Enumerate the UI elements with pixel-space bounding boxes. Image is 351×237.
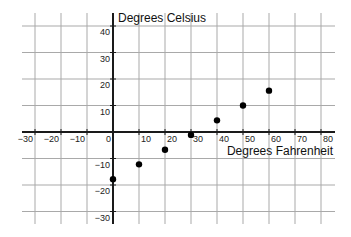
y-tick-label: 40: [100, 27, 110, 37]
data-point: [136, 161, 142, 167]
data-point: [110, 176, 116, 182]
y-tick-label: 20: [100, 80, 110, 90]
x-tick-label: −20: [44, 134, 59, 144]
x-tick-label: 30: [193, 134, 203, 144]
y-tick-label: −30: [95, 213, 110, 223]
grid: [22, 13, 335, 224]
tick-labels: −30−20−100102030405060708040302010−10−20…: [18, 27, 333, 223]
data-point: [240, 102, 246, 108]
x-axis-title: Degrees Fahrenheit: [227, 144, 334, 158]
x-tick-label: −10: [70, 134, 85, 144]
x-tick-label: 40: [219, 134, 229, 144]
y-tick-label: 10: [100, 107, 110, 117]
x-tick-label: 0: [106, 134, 111, 144]
scatter-chart: −30−20−100102030405060708040302010−10−20…: [0, 0, 351, 237]
x-tick-label: 60: [271, 134, 281, 144]
y-tick-label: −10: [95, 160, 110, 170]
data-point: [214, 117, 220, 123]
x-tick-label: 10: [141, 134, 151, 144]
x-tick-label: 70: [297, 134, 307, 144]
axes: [22, 13, 335, 224]
x-tick-label: 50: [245, 134, 255, 144]
y-axis-title: Degrees Celsius: [118, 11, 206, 25]
x-tick-label: 20: [167, 134, 177, 144]
y-tick-label: −20: [95, 186, 110, 196]
data-point: [188, 132, 194, 138]
data-point: [266, 87, 272, 93]
y-tick-label: 30: [100, 54, 110, 64]
x-tick-label: −30: [18, 134, 33, 144]
x-tick-label: 80: [323, 134, 333, 144]
data-point: [162, 147, 168, 153]
